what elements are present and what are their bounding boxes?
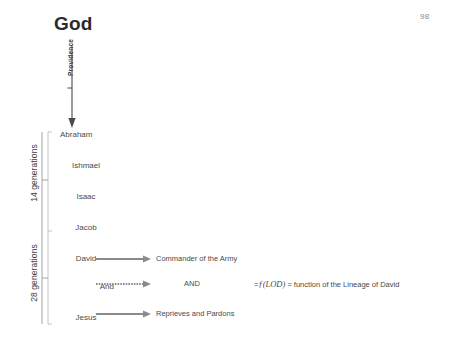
lineage-item-abraham: Abraham (58, 128, 116, 142)
generations-label-28: 28 generations (29, 229, 39, 317)
lineage-item-isaac: Isaac (58, 190, 114, 204)
generations-label-14: 14 generations (29, 129, 39, 217)
right-arrow-icon (96, 310, 152, 318)
generations-bracket-icon (38, 128, 52, 328)
relation-formula-lod: =ƒ(LOD) = function of the Lineage of Dav… (254, 277, 399, 291)
lineage-item-jacob: Jacob (58, 221, 114, 235)
right-arrow-dashed-icon (96, 280, 152, 288)
formula-symbol: ƒ(LOD) (258, 279, 285, 289)
relation-caption-reprieves: Reprieves and Pardons (156, 307, 234, 321)
providence-label: Providence (67, 31, 74, 85)
right-arrow-icon (96, 255, 152, 263)
lineage-item-ishmael: Ishmael (58, 159, 114, 173)
page-number: 98 (420, 12, 448, 21)
relation-caption-commander: Commander of the Army (156, 252, 237, 266)
relation-caption-and: AND (184, 277, 200, 291)
generations-bracket-group: 14 generations 28 generations (16, 128, 60, 328)
providence-arrow-group: Providence (58, 44, 98, 130)
slide-canvas: 98 God Providence 14 genera (0, 0, 457, 340)
formula-suffix: = function of the Lineage of David (287, 280, 399, 289)
